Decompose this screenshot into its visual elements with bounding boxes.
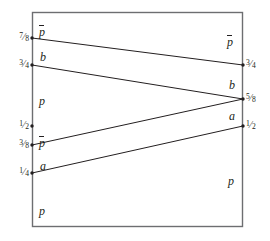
segment-3-8-to-5-8	[32, 99, 243, 145]
left-label-p-mid: p	[39, 95, 45, 107]
dot-right-5-8	[241, 97, 244, 100]
tick-label-left-1-2: 1⁄2	[10, 120, 29, 131]
frame-rect	[33, 13, 243, 227]
right-label-a: a	[229, 110, 235, 122]
right-label-p: p	[228, 175, 234, 187]
right-label-b: b	[229, 79, 235, 91]
right-label-pbar: p	[227, 36, 233, 48]
tick-label-right-5-8: 5⁄8	[246, 93, 256, 104]
segment-1-4-to-1-2	[32, 126, 243, 173]
interval-map-diagram: 7⁄83⁄41⁄23⁄81⁄4 3⁄45⁄81⁄2 pbppap pbap	[0, 0, 270, 241]
left-label-a: a	[40, 160, 46, 172]
dot-right-3-4	[241, 63, 244, 66]
dot-left-1-4	[30, 171, 33, 174]
left-label-pbar-lower: p	[39, 137, 45, 149]
dot-right-1-2	[241, 124, 244, 127]
tick-label-right-1-2: 1⁄2	[246, 120, 256, 131]
tick-label-left-3-8: 3⁄8	[10, 139, 29, 150]
left-label-p-bottom: p	[39, 205, 45, 217]
left-label-b: b	[40, 51, 46, 63]
dot-left-3-4	[30, 63, 33, 66]
segment-3-4-to-5-8	[32, 65, 243, 99]
tick-label-right-3-4: 3⁄4	[246, 59, 256, 70]
diagram-frame	[33, 13, 243, 227]
tick-label-left-1-4: 1⁄4	[10, 167, 29, 178]
dot-left-3-8	[30, 143, 33, 146]
segment-group	[32, 38, 243, 173]
tick-label-left-3-4: 3⁄4	[10, 59, 29, 70]
dot-left-7-8	[30, 36, 33, 39]
left-label-pbar-top: p	[39, 26, 45, 38]
tick-label-left-7-8: 7⁄8	[10, 32, 29, 43]
dot-left-1-2	[30, 124, 33, 127]
segment-7-8-to-3-4	[32, 38, 243, 65]
